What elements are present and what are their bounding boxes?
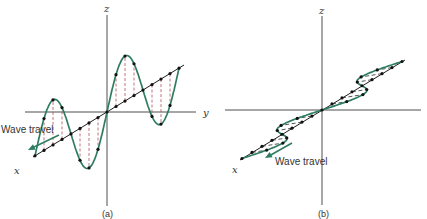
sample-dot — [96, 148, 99, 151]
sample-dot — [361, 93, 364, 96]
wave-travel-label: Wave travel — [1, 124, 53, 135]
sample-dot — [87, 166, 90, 169]
sample-dot — [141, 88, 144, 91]
x-axis-label: x — [14, 165, 20, 176]
sample-dot — [350, 90, 353, 93]
sample-dot — [300, 121, 303, 124]
sample-dot — [310, 114, 313, 117]
sample-dot — [320, 108, 323, 111]
sample-dot — [123, 54, 126, 57]
panel-caption: (b) — [318, 209, 329, 219]
sample-dot — [270, 139, 273, 142]
sample-dot — [60, 138, 63, 141]
sample-dot — [296, 117, 299, 120]
sample-dot — [168, 72, 171, 75]
z-axis-label: z — [318, 5, 325, 16]
sample-dot — [42, 117, 45, 120]
sample-dot — [240, 157, 243, 160]
sample-dot — [87, 121, 90, 124]
sample-dot — [33, 154, 36, 157]
sample-dot — [281, 141, 284, 144]
sample-dot — [114, 73, 117, 76]
sample-dot — [260, 145, 263, 148]
sample-dot — [360, 84, 363, 87]
sample-dot — [285, 136, 288, 139]
x-axis-label: x — [232, 164, 238, 175]
sample-dot — [177, 67, 180, 70]
panel-caption: (a) — [102, 209, 113, 219]
sample-dot — [356, 80, 359, 83]
sample-dot — [78, 159, 81, 162]
sample-dot — [390, 66, 393, 69]
sample-dot — [114, 105, 117, 108]
sample-dot — [280, 133, 283, 136]
sample-dot — [280, 124, 283, 127]
y-axis-label: y — [202, 107, 209, 118]
sample-dot — [96, 116, 99, 119]
z-axis-label: z — [103, 3, 110, 14]
sample-dot — [42, 149, 45, 152]
sample-dot — [105, 110, 108, 113]
sample-dot — [150, 83, 153, 86]
sample-dot — [276, 129, 279, 132]
sample-dot — [132, 62, 135, 65]
sample-dot — [400, 60, 403, 63]
sample-dot — [159, 77, 162, 80]
wave-travel-label: Wave travel — [275, 156, 327, 167]
sample-dot — [340, 96, 343, 99]
sample-dot — [330, 102, 333, 105]
sample-dot — [51, 98, 54, 101]
sample-dot — [51, 143, 54, 146]
sample-dot — [250, 151, 253, 154]
sample-dot — [132, 94, 135, 97]
wave-travel-arrow-icon — [32, 135, 59, 148]
sample-dot — [365, 88, 368, 91]
sample-dot — [123, 99, 126, 102]
sample-dot — [360, 75, 363, 78]
panel-a-vertical-polarization: z y x Wave travel (a) — [1, 3, 209, 219]
polarized-wave-figure: z y x Wave travel (a) z x Wave travel (b… — [0, 0, 427, 219]
sample-dot — [159, 122, 162, 125]
sample-dot — [345, 100, 348, 103]
sample-dot — [376, 68, 379, 71]
sample-dot — [60, 106, 63, 109]
sample-dot — [380, 72, 383, 75]
sample-dot — [370, 78, 373, 81]
sample-dot — [78, 127, 81, 130]
sample-dot — [265, 148, 268, 151]
sample-dot — [168, 104, 171, 107]
sample-dot — [69, 132, 72, 135]
panel-b-horizontal-polarization: z x Wave travel (b) — [225, 5, 421, 219]
sample-dot — [150, 115, 153, 118]
sample-dot — [290, 127, 293, 130]
